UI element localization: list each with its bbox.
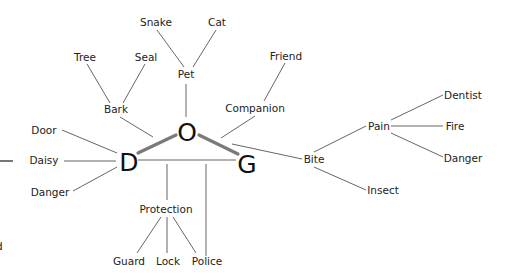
node-guard: Guard [113,255,145,267]
edge-d-o [138,135,176,153]
edge-bark-tree [87,64,110,103]
node-daisy: Daisy [29,154,58,166]
node-tree: Tree [73,51,96,63]
node-friend: Friend [270,50,302,62]
cropped-text-fragment: d [0,240,3,252]
node-fire: Fire [446,120,465,132]
node-lock: Lock [156,255,181,267]
node-seal: Seal [135,51,157,63]
edge-pain-dentist [391,95,443,120]
edge-bite-insect [314,167,366,190]
edge-protection-guard [137,217,161,253]
node-protection: Protection [139,203,192,215]
edge-o-g [199,135,238,154]
edge-o-bark [120,117,153,137]
letter-d: D [119,148,138,177]
node-cat: Cat [208,16,226,28]
letter-g: G [237,150,256,179]
node-bite: Bite [304,153,325,165]
edge-o-companion [221,116,255,138]
node-door: Door [31,124,57,136]
node-pain: Pain [368,120,390,132]
edge-bite-pain [314,126,366,152]
word-association-diagram: d D O G [0,0,512,278]
node-police: Police [192,255,222,267]
node-snake: Snake [140,16,172,28]
edge-d-door [62,130,117,153]
node-pet: Pet [178,68,195,80]
node-insect: Insect [367,184,399,196]
edge-pet-cat [193,30,216,67]
node-danger-left: Danger [31,186,70,198]
edge-pet-snake [157,30,184,67]
edge-d-danger [73,167,117,191]
edge-companion-friend [264,63,285,101]
node-danger-right: Danger [444,152,483,164]
edge-bark-seal [123,64,145,103]
letter-o: O [177,118,197,147]
edge-protection-police [173,217,196,253]
edge-pain-danger [391,133,443,157]
node-dentist: Dentist [444,89,482,101]
node-companion: Companion [225,102,285,114]
diagram-svg: d D O G [0,0,512,278]
node-bark: Bark [104,103,129,115]
